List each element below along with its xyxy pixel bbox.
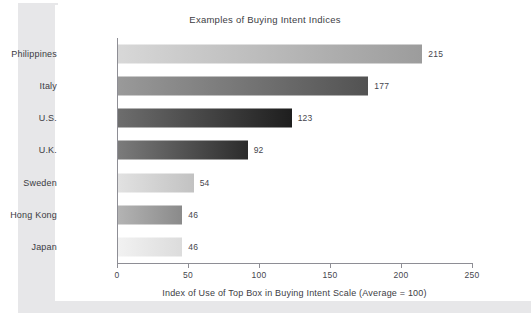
x-axis-tick-label: 200 <box>394 270 409 280</box>
bar <box>117 77 368 96</box>
bar <box>117 173 194 192</box>
x-axis-tick <box>330 263 331 268</box>
bar-row: U.S.123 <box>0 102 531 134</box>
x-axis-tick-label: 150 <box>323 270 338 280</box>
bar-row: Sweden54 <box>0 167 531 199</box>
x-axis-tick-label: 50 <box>183 270 193 280</box>
bar <box>117 45 422 64</box>
x-axis-tick-label: 0 <box>115 270 120 280</box>
plot-area: Philippines215Italy177U.S.123U.K.92Swede… <box>0 0 531 323</box>
bar-value-label: 46 <box>188 210 198 220</box>
scanned-page-background: Examples of Buying Intent Indices Philip… <box>0 0 531 323</box>
category-label: U.S. <box>39 113 57 123</box>
bar-value-label: 123 <box>298 113 313 123</box>
bar-row: Philippines215 <box>0 38 531 70</box>
x-axis-tick <box>188 263 189 268</box>
x-axis-tick <box>401 263 402 268</box>
x-axis-tick <box>259 263 260 268</box>
x-axis-tick <box>472 263 473 268</box>
x-axis-tick <box>117 263 118 268</box>
bar <box>117 205 182 224</box>
bar-value-label: 54 <box>200 178 210 188</box>
bar-row: Hong Kong46 <box>0 199 531 231</box>
bar-value-label: 92 <box>254 145 264 155</box>
x-axis-title: Index of Use of Top Box in Buying Intent… <box>117 288 472 298</box>
bar-value-label: 177 <box>374 81 389 91</box>
category-label: U.K. <box>39 145 57 155</box>
x-axis-line <box>117 263 472 264</box>
bar-value-label: 46 <box>188 242 198 252</box>
bar-row: Italy177 <box>0 70 531 102</box>
x-axis-tick-label: 250 <box>465 270 480 280</box>
bar-row: U.K.92 <box>0 134 531 166</box>
y-axis-line <box>117 38 118 264</box>
bar-row: Japan46 <box>0 231 531 263</box>
bar-value-label: 215 <box>428 49 443 59</box>
category-label: Sweden <box>23 178 57 188</box>
x-axis-tick-label: 100 <box>252 270 267 280</box>
category-label: Hong Kong <box>10 210 57 220</box>
category-label: Italy <box>39 81 57 91</box>
category-label: Philippines <box>11 49 57 59</box>
bar <box>117 109 292 128</box>
bar <box>117 237 182 256</box>
category-label: Japan <box>31 242 57 252</box>
bar <box>117 141 248 160</box>
